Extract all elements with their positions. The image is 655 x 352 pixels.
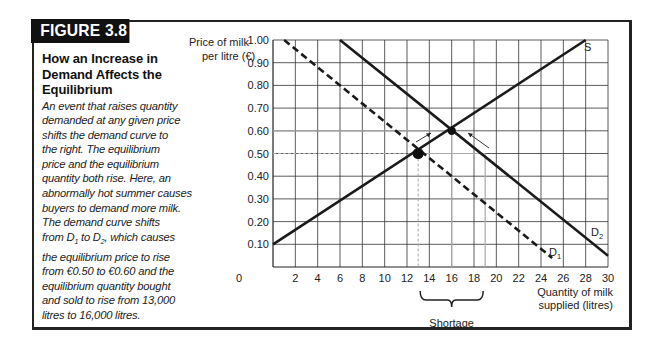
supply-demand-chart: 0246810121416182022242628300.100.200.300… [0,0,655,352]
label-d1: D1 [549,246,561,261]
y-axis-label: Price of milk [189,36,249,48]
x-tick-label: 10 [379,272,391,284]
x-tick-label: 4 [315,272,321,284]
label-d2: D2 [591,226,603,241]
y-tick-label: 0.80 [248,79,269,91]
equilibrium-initial-dot [413,148,424,159]
y-tick-label: 0.40 [248,170,269,182]
label-s: S [584,41,591,53]
y-tick-label: 1.00 [248,34,269,46]
y-tick-label: 0.20 [248,216,269,228]
x-tick-label: 0 [236,272,242,284]
x-tick-label: 20 [490,272,502,284]
x-tick-label: 24 [535,272,547,284]
y-tick-label: 0.50 [248,148,269,160]
x-tick-label: 26 [557,272,569,284]
x-tick-label: 14 [423,272,435,284]
x-tick-label: 12 [401,272,413,284]
y-tick-label: 0.30 [248,193,269,205]
y-tick-label: 0.10 [248,238,269,250]
x-tick-label: 22 [513,272,525,284]
equilibrium-new-dot [447,127,455,135]
y-tick-label: 0.60 [248,125,269,137]
x-tick-label: 6 [337,272,343,284]
shortage-brace [420,291,483,307]
arrow-along-demand-head [468,133,473,137]
x-tick-label: 8 [359,272,365,284]
y-tick-label: 0.70 [248,102,269,114]
shortage-label: Shortage [429,317,474,329]
y-axis-label-2: per litre (€) [202,50,255,62]
x-tick-label: 16 [446,272,458,284]
x-axis-label-2: supplied (litres) [538,299,613,311]
x-axis-label: Quantity of milk [537,286,613,298]
x-tick-label: 30 [602,272,614,284]
x-tick-label: 18 [468,272,480,284]
x-tick-label: 28 [580,272,592,284]
x-tick-label: 2 [292,272,298,284]
